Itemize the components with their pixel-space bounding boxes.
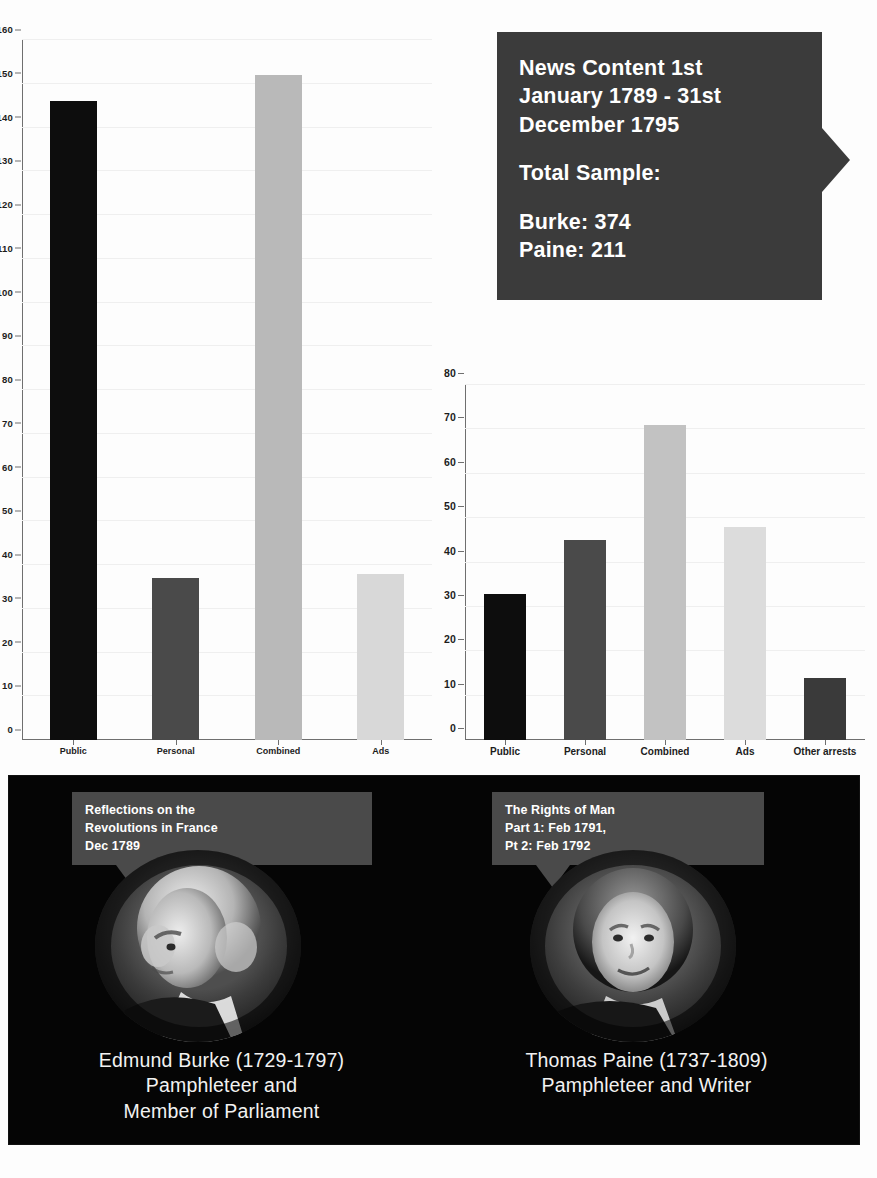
- x-tick-mark: [585, 740, 586, 745]
- paine-portrait-illustration: [530, 850, 736, 1042]
- y-tick-20: 20: [444, 633, 465, 645]
- y-tick-80: 80: [2, 374, 22, 385]
- bar-public: [484, 594, 526, 740]
- burke-portrait-illustration: [95, 850, 301, 1042]
- y-tick-0: 0: [8, 724, 22, 735]
- news-content-callout: News Content 1st January 1789 - 31st Dec…: [497, 32, 822, 300]
- burke-total-value: Burke: 374: [519, 208, 802, 236]
- x-label-personal: Personal: [545, 746, 625, 757]
- bar-slot-other-arrests: [785, 385, 865, 740]
- burke-plot-area: 0102030405060708090100110120130140150160…: [22, 40, 432, 740]
- y-tick-60: 60: [444, 456, 465, 468]
- y-tick-110: 110: [0, 242, 22, 253]
- burke-x-tick-labels: PublicPersonalCombinedAds: [22, 746, 432, 756]
- y-tick-130: 130: [0, 155, 22, 166]
- news-callout-line-2: January 1789 - 31st: [519, 82, 802, 110]
- burke-bar-chart: 0102030405060708090100110120130140150160…: [22, 40, 432, 740]
- burke-bars: [22, 40, 432, 740]
- y-tick-40: 40: [2, 549, 22, 560]
- x-tick-mark: [745, 740, 746, 745]
- y-tick-80: 80: [444, 367, 465, 379]
- x-label-personal: Personal: [125, 746, 228, 756]
- x-label-other-arrests: Other arrests: [785, 746, 865, 757]
- bar-slot-combined: [625, 385, 705, 740]
- paine-bar-chart: 01020304050607080 PublicPersonalCombined…: [465, 385, 865, 740]
- x-label-ads: Ads: [330, 746, 433, 756]
- total-sample-label: Total Sample:: [519, 159, 802, 187]
- x-label-combined: Combined: [625, 746, 705, 757]
- x-label-public: Public: [465, 746, 545, 757]
- paine-caption: Thomas Paine (1737-1809) Pamphleteer and…: [434, 1048, 859, 1099]
- bar-combined: [255, 75, 302, 740]
- x-tick-mark: [381, 740, 382, 745]
- x-label-public: Public: [22, 746, 125, 756]
- callout-pointer-icon: [822, 128, 850, 192]
- y-tick-30: 30: [2, 592, 22, 603]
- bar-ads: [357, 574, 404, 740]
- y-tick-120: 120: [0, 199, 22, 210]
- y-tick-90: 90: [2, 330, 22, 341]
- y-tick-20: 20: [2, 636, 22, 647]
- y-tick-30: 30: [444, 589, 465, 601]
- bar-other-arrests: [804, 678, 846, 740]
- news-callout-line-1: News Content 1st: [519, 54, 802, 82]
- person-burke: Reflections on the Revolutions in France…: [9, 776, 434, 1144]
- x-label-ads: Ads: [705, 746, 785, 757]
- y-tick-100: 100: [0, 286, 22, 297]
- bar-public: [50, 101, 97, 740]
- portrait-thomas-paine: [530, 850, 736, 1042]
- bar-slot-personal: [545, 385, 625, 740]
- bar-personal: [564, 540, 606, 740]
- y-tick-0: 0: [450, 722, 465, 734]
- y-tick-40: 40: [444, 545, 465, 557]
- y-tick-160: 160: [0, 24, 22, 35]
- x-tick-mark: [278, 740, 279, 745]
- portrait-edmund-burke: [95, 850, 301, 1042]
- paine-bars: [465, 385, 865, 740]
- y-tick-70: 70: [2, 417, 22, 428]
- x-label-combined: Combined: [227, 746, 330, 756]
- paine-plot-area: 01020304050607080 PublicPersonalCombined…: [465, 385, 865, 740]
- y-tick-10: 10: [2, 680, 22, 691]
- x-tick-mark: [665, 740, 666, 745]
- authors-panel: Reflections on the Revolutions in France…: [8, 775, 860, 1145]
- news-callout-spacer-2: [519, 188, 802, 208]
- bar-slot-public: [22, 40, 125, 740]
- y-tick-70: 70: [444, 411, 465, 423]
- bar-combined: [644, 425, 686, 740]
- y-tick-50: 50: [2, 505, 22, 516]
- x-tick-mark: [505, 740, 506, 745]
- slide-canvas: 0102030405060708090100110120130140150160…: [0, 0, 877, 1178]
- y-tick-10: 10: [444, 678, 465, 690]
- paine-x-tick-labels: PublicPersonalCombinedAdsOther arrests: [465, 746, 865, 757]
- paine-total-value: Paine: 211: [519, 236, 802, 264]
- y-tick-50: 50: [444, 500, 465, 512]
- x-tick-mark: [73, 740, 74, 745]
- bar-slot-combined: [227, 40, 330, 740]
- bar-personal: [152, 578, 199, 740]
- news-callout-line-3: December 1795: [519, 111, 802, 139]
- bar-ads: [724, 527, 766, 740]
- bar-slot-public: [465, 385, 545, 740]
- y-tick-140: 140: [0, 111, 22, 122]
- person-paine: The Rights of Man Part 1: Feb 1791, Pt 2…: [434, 776, 859, 1144]
- x-tick-mark: [825, 740, 826, 745]
- bar-slot-personal: [125, 40, 228, 740]
- bar-slot-ads: [330, 40, 433, 740]
- y-tick-150: 150: [0, 67, 22, 78]
- bar-slot-ads: [705, 385, 785, 740]
- y-tick-60: 60: [2, 461, 22, 472]
- news-callout-spacer: [519, 139, 802, 159]
- burke-caption: Edmund Burke (1729-1797) Pamphleteer and…: [9, 1048, 434, 1124]
- x-tick-mark: [176, 740, 177, 745]
